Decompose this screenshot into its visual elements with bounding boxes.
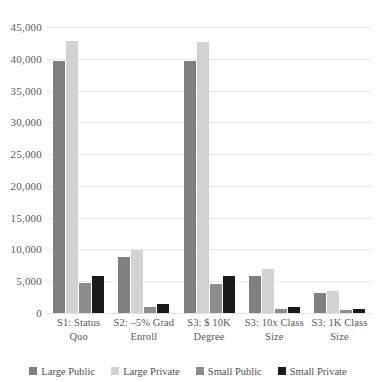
y-axis: 45,00040,00035,00030,00025,00020,00015,0… — [0, 27, 42, 313]
x-axis-label-line: Size — [307, 330, 372, 344]
y-axis-tick-label: 10,000 — [11, 244, 42, 255]
legend-swatch-icon — [278, 367, 286, 375]
x-axis-category-label: S1: StatusQuo — [46, 316, 111, 352]
x-axis: S1: StatusQuoS2: –5% GradEnrollS3: $ 10K… — [46, 316, 372, 352]
bar[interactable] — [353, 309, 365, 313]
x-axis-label-line: S3: 10x Class — [242, 316, 307, 330]
bar[interactable] — [184, 61, 196, 313]
x-axis-label-line: S3: $ 10K — [176, 316, 241, 330]
legend-swatch-icon — [29, 367, 37, 375]
bar[interactable] — [288, 307, 300, 313]
bar[interactable] — [197, 42, 209, 313]
bar[interactable] — [327, 291, 339, 313]
bar[interactable] — [66, 41, 78, 313]
y-axis-tick-label: 0 — [36, 308, 42, 319]
y-axis-tick-label: 30,000 — [11, 117, 42, 128]
legend-item[interactable]: Small Public — [196, 366, 262, 377]
x-axis-label-line: Quo — [46, 330, 111, 344]
y-axis-tick-label: 5,000 — [16, 276, 42, 287]
axis-baseline — [46, 313, 372, 314]
x-axis-category-label: S3: $ 10KDegree — [176, 316, 241, 352]
bar[interactable] — [131, 250, 143, 313]
bar[interactable] — [92, 276, 104, 313]
bar[interactable] — [223, 276, 235, 313]
bar[interactable] — [314, 293, 326, 313]
x-axis-label-line: S2: –5% Grad — [111, 316, 176, 330]
x-axis-label-line: S1: Status — [46, 316, 111, 330]
bar[interactable] — [79, 283, 91, 313]
plot-area — [46, 27, 372, 313]
bar[interactable] — [157, 304, 169, 313]
bar-group — [176, 27, 241, 313]
x-axis-label-line: Degree — [176, 330, 241, 344]
bar[interactable] — [249, 276, 261, 313]
x-axis-label-line: Enroll — [111, 330, 176, 344]
bar-group — [307, 27, 372, 313]
legend-label: Large Public — [41, 366, 95, 377]
y-axis-tick-label: 45,000 — [11, 22, 42, 33]
legend: Large PublicLarge PrivateSmall PublicSma… — [0, 362, 376, 380]
bar-group — [242, 27, 307, 313]
x-axis-label-line: S3: 1K Class — [307, 316, 372, 330]
legend-item[interactable]: Large Private — [111, 366, 180, 377]
bar-group — [46, 27, 111, 313]
bar[interactable] — [144, 307, 156, 313]
bar-group — [111, 27, 176, 313]
y-axis-tick-label: 20,000 — [11, 180, 42, 191]
legend-label: Small Private — [290, 366, 347, 377]
y-axis-tick-label: 35,000 — [11, 85, 42, 96]
x-axis-category-label: S3: 10x ClassSize — [242, 316, 307, 352]
y-axis-tick-label: 25,000 — [11, 149, 42, 160]
legend-item[interactable]: Small Private — [278, 366, 347, 377]
bar[interactable] — [275, 309, 287, 313]
bar-chart: 45,00040,00035,00030,00025,00020,00015,0… — [0, 0, 376, 382]
y-axis-tick-label: 15,000 — [11, 212, 42, 223]
bar[interactable] — [210, 284, 222, 313]
x-axis-category-label: S3: 1K ClassSize — [307, 316, 372, 352]
legend-label: Large Private — [123, 366, 180, 377]
legend-swatch-icon — [111, 367, 119, 375]
y-axis-tick-label: 40,000 — [11, 53, 42, 64]
bar[interactable] — [118, 257, 130, 313]
x-axis-category-label: S2: –5% GradEnroll — [111, 316, 176, 352]
bar[interactable] — [262, 269, 274, 313]
x-axis-label-line: Size — [242, 330, 307, 344]
legend-item[interactable]: Large Public — [29, 366, 95, 377]
bar[interactable] — [53, 61, 65, 313]
legend-label: Small Public — [208, 366, 262, 377]
bar-groups — [46, 27, 372, 313]
bar[interactable] — [340, 310, 352, 313]
legend-swatch-icon — [196, 367, 204, 375]
